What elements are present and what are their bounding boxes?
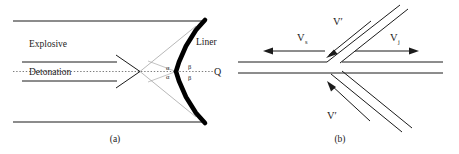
label-vj-group: V j — [390, 32, 400, 45]
alpha-guide-lower — [148, 72, 176, 83]
liner-wall-lower-outer — [342, 71, 412, 128]
label-liner: Liner — [196, 37, 217, 47]
arrow-vprime-upper-head — [326, 50, 338, 59]
label-vj-subscript: j — [397, 38, 400, 45]
arrow-vprime-lower-head — [327, 81, 336, 92]
label-axis-point-q: Q — [214, 66, 222, 77]
panel-b-svg: V s V j V′ V′ (b) — [230, 0, 459, 154]
label-explosive: Explosive — [29, 39, 67, 49]
caption-panel-b: (b) — [334, 134, 345, 145]
liner-wall-upper-outer — [340, 9, 408, 63]
label-alpha-upper: α — [166, 64, 170, 71]
caption-panel-a: (a) — [110, 134, 121, 145]
liner-wall-lower-inner — [331, 74, 402, 132]
label-vs-symbol: V — [297, 32, 305, 43]
label-vs-subscript: s — [305, 38, 308, 45]
alpha-guide-upper — [148, 61, 176, 72]
label-alpha-lower: α — [166, 73, 170, 80]
arrow-vj-head — [409, 48, 419, 55]
panel-b-velocity-diagram: V s V j V′ V′ (b) — [230, 0, 459, 154]
label-vj-symbol: V — [390, 32, 398, 43]
label-beta-upper: β — [188, 63, 192, 70]
label-vs-group: V s — [297, 32, 308, 45]
arrow-vs-head — [263, 48, 273, 55]
figure-container: Explosive Detonation Liner α α β β Q (a) — [0, 0, 459, 154]
panel-a-svg: Explosive Detonation Liner α α β β Q (a) — [0, 0, 230, 154]
label-vprime-upper: V′ — [333, 16, 343, 27]
label-beta-lower: β — [188, 74, 192, 81]
label-detonation: Detonation — [29, 67, 71, 77]
panel-a-shaped-charge: Explosive Detonation Liner α α β β Q (a) — [0, 0, 230, 154]
label-vprime-lower: V′ — [327, 110, 337, 121]
